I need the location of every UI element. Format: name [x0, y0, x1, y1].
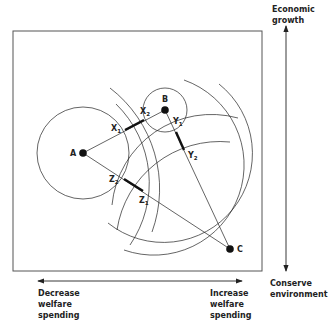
axis-label-increase-welfare: Increase welfare spending [210, 288, 252, 321]
ideal-points [79, 106, 234, 253]
label-x2: X2 [140, 107, 150, 117]
rung-z1-z2 [124, 179, 143, 191]
arc-c-through-x2 [110, 88, 160, 232]
label-y1: Y1 [172, 117, 183, 127]
label-c: C [237, 245, 243, 254]
label-z1: Z1 [139, 196, 149, 206]
axis-label-conserve-environment: Conserve environment [270, 278, 328, 300]
label-a: A [70, 149, 77, 158]
rung-x1-x2 [125, 120, 144, 130]
axis-label-decrease-welfare: Decrease welfare spending [38, 288, 80, 321]
arc-b-through-z2 [108, 84, 252, 242]
ideal-point-a [79, 149, 87, 157]
label-z2: Z2 [109, 175, 119, 185]
rung-y1-y2 [176, 132, 184, 150]
label-y2: Y2 [187, 151, 198, 161]
axis-label-economic-growth: Economic growth [272, 4, 315, 26]
policy-space-frame [13, 31, 262, 271]
ideal-point-b [161, 106, 169, 114]
label-b: B [162, 95, 168, 104]
line-a-c [83, 153, 230, 249]
ideal-point-c [226, 245, 234, 253]
